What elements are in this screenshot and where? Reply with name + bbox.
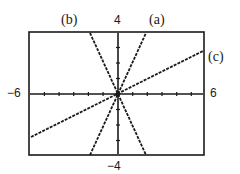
label-b: (b) — [61, 13, 77, 27]
label-xmax: 6 — [210, 87, 217, 99]
label-ymin: −4 — [107, 160, 121, 172]
label-c: (c) — [208, 50, 224, 64]
label-xmin: −6 — [7, 87, 21, 99]
label-ymax: 4 — [114, 14, 121, 26]
label-a: (a) — [149, 13, 165, 27]
origin-point — [116, 92, 121, 97]
